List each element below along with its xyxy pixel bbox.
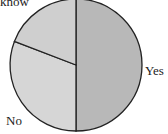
label-dont-know: know — [0, 0, 29, 10]
label-no: No — [6, 113, 22, 129]
slice-yes — [76, 0, 142, 131]
label-yes: Yes — [145, 63, 164, 79]
pie-chart — [0, 0, 168, 134]
